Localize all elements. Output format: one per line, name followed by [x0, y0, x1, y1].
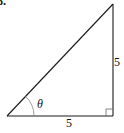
diagram-canvas: 8. 5 5 θ	[0, 0, 124, 133]
triangle-figure	[0, 0, 124, 133]
hypotenuse-line	[7, 4, 113, 116]
right-angle-marker	[106, 109, 113, 116]
height-length-label: 5	[114, 56, 120, 68]
theta-angle-label: θ	[37, 98, 43, 110]
theta-angle-arc	[26, 96, 34, 116]
base-length-label: 5	[66, 117, 72, 129]
problem-number: 8.	[0, 0, 6, 7]
